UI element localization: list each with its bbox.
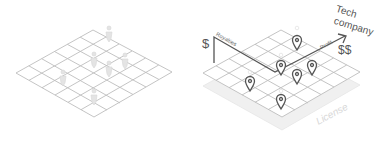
person-icon: [106, 61, 112, 77]
person-icon: [91, 89, 97, 105]
person-icon: [122, 53, 128, 69]
dollar-left-label: $: [202, 36, 209, 51]
people-figures: [60, 26, 128, 105]
dollar-right-label: $$: [338, 43, 351, 57]
illustration-canvas: [0, 0, 391, 141]
person-icon: [91, 52, 97, 68]
